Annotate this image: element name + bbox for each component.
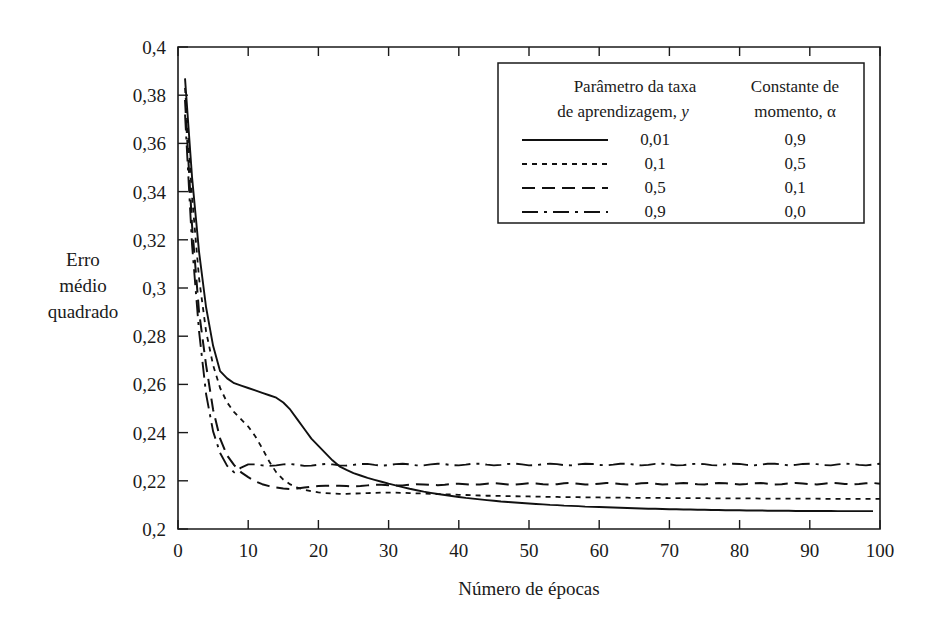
legend-momentum-1: 0,5 <box>784 154 805 173</box>
legend-learning-rate-2: 0,5 <box>644 178 665 197</box>
y-axis-title-line-2: médio <box>59 275 107 296</box>
y-tick-label-0,26: 0,26 <box>133 374 166 395</box>
x-tick-label-100: 100 <box>866 540 895 561</box>
x-axis-title: Número de épocas <box>458 578 599 599</box>
y-tick-label-0,38: 0,38 <box>133 85 166 106</box>
legend-header-right-line-2-symbol: α <box>827 102 836 121</box>
legend-header-left-line-2-symbol: y <box>679 102 689 121</box>
legend-header-right-line-1: Constante de <box>751 77 839 96</box>
legend-learning-rate-0: 0,01 <box>640 130 670 149</box>
y-tick-label-0,22: 0,22 <box>133 471 166 492</box>
y-axis-title-line-3: quadrado <box>48 301 119 322</box>
x-tick-label-80: 80 <box>730 540 749 561</box>
legend-learning-rate-3: 0,9 <box>644 202 665 221</box>
legend-header-right-line-2-prefix: momento, <box>754 102 827 121</box>
x-tick-label-20: 20 <box>309 540 328 561</box>
x-tick-label-10: 10 <box>239 540 258 561</box>
y-tick-label-0,36: 0,36 <box>133 133 166 154</box>
y-tick-label-0,28: 0,28 <box>133 326 166 347</box>
x-axis-tick-labels: 0102030405060708090100 <box>173 540 894 561</box>
x-tick-label-50: 50 <box>520 540 539 561</box>
mean-squared-error-line-chart: 0102030405060708090100 0,20,220,240,260,… <box>0 0 929 632</box>
y-tick-label-0,34: 0,34 <box>133 182 167 203</box>
x-tick-label-70: 70 <box>660 540 679 561</box>
y-axis-title-line-1: Erro <box>66 249 100 270</box>
legend-header-left-line-1: Parâmetro da taxa <box>574 77 697 96</box>
x-tick-label-60: 60 <box>590 540 609 561</box>
legend-header-left-line-2: de aprendizagem, y <box>557 102 689 121</box>
y-tick-label-0,32: 0,32 <box>133 230 166 251</box>
y-tick-label-0,4: 0,4 <box>142 37 166 58</box>
x-tick-label-90: 90 <box>800 540 819 561</box>
legend-learning-rate-1: 0,1 <box>644 154 665 173</box>
y-axis-title: Erro médio quadrado <box>48 249 119 322</box>
legend-header-left-line-2-prefix: de aprendizagem, <box>557 102 681 121</box>
legend-momentum-3: 0,0 <box>784 202 805 221</box>
y-tick-label-0,24: 0,24 <box>133 423 167 444</box>
legend-momentum-0: 0,9 <box>784 130 805 149</box>
y-axis-tick-labels: 0,20,220,240,260,280,30,320,340,360,380,… <box>133 37 167 540</box>
legend-momentum-2: 0,1 <box>784 178 805 197</box>
y-tick-label-0,2: 0,2 <box>142 519 166 540</box>
x-tick-label-0: 0 <box>173 540 183 561</box>
legend: Parâmetro da taxa de aprendizagem, y Con… <box>498 63 864 223</box>
y-tick-label-0,3: 0,3 <box>142 278 166 299</box>
x-tick-label-30: 30 <box>379 540 398 561</box>
figure-container: 0102030405060708090100 0,20,220,240,260,… <box>0 0 929 632</box>
legend-header-right-line-2: momento, α <box>754 102 836 121</box>
x-tick-label-40: 40 <box>449 540 468 561</box>
